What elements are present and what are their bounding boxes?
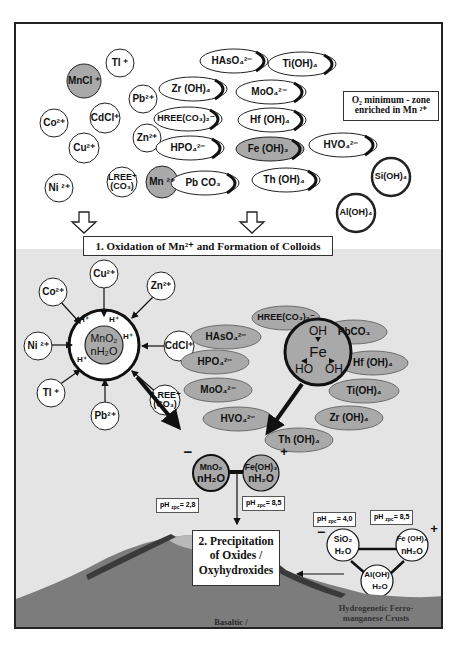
rock-label-line2: Calcareous Substrate Rocks xyxy=(166,627,296,629)
cation-mn: Mn ²⁺ xyxy=(149,177,175,188)
coupled-fe-charge: + xyxy=(280,445,288,459)
fe-adsorbed-zroh4: Zr (OH)₄ xyxy=(329,413,368,424)
mn-adsorbed-ni: Ni ²⁺ xyxy=(27,341,48,352)
mn-core-line2: nH₂O xyxy=(91,346,118,358)
rock-label: Basaltic / Calcareous Substrate Rocks xyxy=(166,617,296,629)
fe-adsorbed-hfoh4: Hf (OH)₄ xyxy=(353,358,393,369)
proton-4: H⁺ xyxy=(77,356,87,364)
cation-ni: Ni ²⁺ xyxy=(48,183,69,194)
crust-label-line2: manganese Crusts xyxy=(316,614,436,624)
coupled-mn-line1: MnO₂ xyxy=(200,463,223,472)
crust-fe-charge: + xyxy=(430,522,438,536)
cation-cdcl: CdCl⁺ xyxy=(91,113,119,124)
fe-core-oh-top: OH xyxy=(309,325,327,338)
fe-core-oh-right: OH xyxy=(325,363,343,376)
fe-adsorbed-hvo4: HVO₄²⁻ xyxy=(221,414,256,425)
crust-si-line2: H₂O xyxy=(335,547,352,556)
cation-lree: LREE⁺ (CO₃) xyxy=(108,173,136,192)
anion-hvo4: HVO₄²⁻ xyxy=(324,140,359,151)
anion-pbCO3: Pb CO₃ xyxy=(185,178,220,189)
anion-zrOH4: Zr (OH)₄ xyxy=(171,84,210,95)
mn-core-line1: MnO₂ xyxy=(91,333,118,344)
cation-mncl: MnCl ⁺ xyxy=(68,76,100,87)
ph-zpc-feoh3: pH zpc= 8,5 xyxy=(242,496,285,511)
fe-core-fe: Fe xyxy=(309,344,327,360)
cation-pb: Pb²⁺ xyxy=(132,94,153,105)
mn-adsorbed-zn: Zn²⁺ xyxy=(151,281,172,292)
step2-line2: of Oxides / xyxy=(193,548,279,562)
coupled-fe-line2: nH₂O xyxy=(248,474,274,485)
mn-adsorbed-cu: Cu²⁺ xyxy=(93,269,115,280)
cation-co: Co²⁺ xyxy=(43,118,65,129)
anion-feOH3: Fe (OH)₃ xyxy=(248,144,289,155)
note-line2: enriched in Mn ²⁺ xyxy=(344,105,438,115)
mn-adsorbed-tl: Tl ⁺ xyxy=(43,388,60,399)
anion-siOH4: Si(OH)₄ xyxy=(375,172,407,181)
step2-line3: Oxyhydroxides xyxy=(193,563,279,577)
anion-moO4: MoO₄²⁻ xyxy=(251,87,286,98)
step2-line1: 2. Precipitation xyxy=(193,534,279,548)
cation-zn: Zn²⁺ xyxy=(137,133,158,144)
proton-1: H⁺ xyxy=(79,316,89,324)
diagram-frame: Tl ⁺ MnCl ⁺ Pb²⁺ Co²⁺ CdCl⁺ Zn²⁺ Cu²⁺ Ni… xyxy=(14,22,443,629)
anion-tiOH4: Ti(OH)₄ xyxy=(282,59,317,70)
mn-adsorbed-co: Co²⁺ xyxy=(42,287,64,298)
crust-al-line1: Al(OH) xyxy=(364,571,389,579)
anion-thOH4: Th (OH)₄ xyxy=(263,175,304,186)
cation-tl: Tl ⁺ xyxy=(112,58,129,69)
anion-hfOH4: Hf (OH)₄ xyxy=(250,115,290,126)
anion-hreeCO3: HREE(CO₃)₂⁻ xyxy=(157,114,215,123)
note-line1: O₂ minimum - zone xyxy=(344,95,438,105)
coupled-fe-line1: Fe(OH)₃ xyxy=(245,463,277,472)
coupled-mn-line2: nH₂O xyxy=(197,473,225,485)
rock-label-line1: Basaltic / xyxy=(166,617,296,627)
fe-adsorbed-hree: HREE(CO₃)₂⁻ xyxy=(257,313,315,322)
fe-adsorbed-haso4: HAsO₄²⁻ xyxy=(206,332,247,343)
crust-si-charge: − xyxy=(317,525,325,540)
fe-adsorbed-moo4: MoO₄²⁻ xyxy=(200,385,235,396)
fe-adsorbed-pbco3: PbCO₃ xyxy=(338,327,370,338)
step2-precipitation-label: 2. Precipitation of Oxides / Oxyhydroxid… xyxy=(192,530,280,586)
proton-3: H⁺ xyxy=(123,333,133,341)
crust-al-line2: H₂O xyxy=(372,583,388,591)
cation-cu: Cu²⁺ xyxy=(73,143,95,154)
anion-alOH4: Al(OH)₄ xyxy=(340,208,373,217)
step1-oxidation-label: 1. Oxidation of Mn²⁺ and Formation of Co… xyxy=(83,236,333,256)
mn-adsorbed-pb: Pb²⁺ xyxy=(94,411,115,422)
anion-hpo4: HPO₄²⁻ xyxy=(171,143,206,154)
fe-adsorbed-hpo4: HPO₄²⁻ xyxy=(198,357,233,368)
crust-label: Hydrogenetic Ferro- manganese Crusts xyxy=(316,604,436,624)
mn-adsorbed-cdcl: CdCl⁺ xyxy=(165,341,193,352)
anion-hasO4: HAsO₄²⁻ xyxy=(212,56,253,67)
crust-fe-line1: Fe (OH)₃ xyxy=(397,535,428,543)
crust-fe-line2: nH₂O xyxy=(401,547,423,556)
fe-core-ho-left: HO xyxy=(295,363,313,376)
crust-si-line1: SiO₂ xyxy=(334,535,352,544)
upper-anions xyxy=(154,49,410,232)
mn-adsorbed-lree: LREE⁺ (CO₃) xyxy=(152,391,178,410)
ph-zpc-feoh3-crust: pH zpc= 8,5 xyxy=(370,510,413,525)
proton-2: H⁺ xyxy=(109,316,119,324)
fe-adsorbed-tioh4: Ti(OH)₄ xyxy=(346,386,381,397)
ph-zpc-mno2: pH zpc= 2,8 xyxy=(156,498,199,513)
coupled-mn-charge: − xyxy=(184,444,193,460)
o2-minimum-zone-note: O₂ minimum - zone enriched in Mn ²⁺ xyxy=(343,91,439,121)
down-arrows xyxy=(72,212,264,233)
fe-colloid-graphic xyxy=(181,306,408,452)
